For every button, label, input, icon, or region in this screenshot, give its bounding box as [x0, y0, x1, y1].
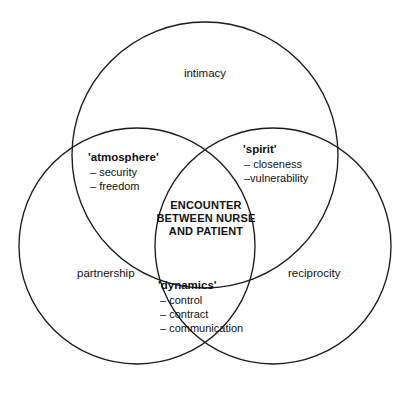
- group-title-spirit: 'spirit': [243, 143, 277, 155]
- group-title-atmosphere: 'atmosphere': [88, 151, 159, 163]
- group-item-spirit-2: –vulnerability: [244, 172, 309, 184]
- center-line-3: AND PATIENT: [169, 225, 244, 237]
- outer-label-partnership: partnership: [77, 267, 135, 279]
- group-item-dynamics-2: – contract: [160, 308, 208, 320]
- outer-label-reciprocity: reciprocity: [288, 267, 341, 279]
- outer-label-intimacy: intimacy: [184, 67, 226, 79]
- group-title-dynamics: 'dynamics': [158, 279, 217, 291]
- venn-diagram: intimacy partnership reciprocity 'atmosp…: [0, 0, 406, 408]
- group-item-atmosphere-1: – security: [90, 166, 138, 178]
- group-item-dynamics-3: – communication: [160, 322, 243, 334]
- center-line-2: BETWEEN NURSE: [156, 212, 255, 224]
- venn-diagram-canvas: intimacy partnership reciprocity 'atmosp…: [0, 0, 406, 408]
- group-item-spirit-1: – closeness: [244, 158, 303, 170]
- center-line-1: ENCOUNTER: [170, 199, 241, 211]
- group-item-dynamics-1: – control: [160, 294, 202, 306]
- group-item-atmosphere-2: – freedom: [90, 180, 140, 192]
